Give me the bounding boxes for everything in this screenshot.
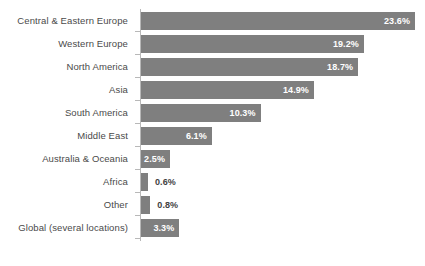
category-label: Asia <box>0 78 134 101</box>
bar-container: 18.7% <box>141 58 358 76</box>
bar-value-label: 0.8% <box>157 200 178 210</box>
bar-chart: Central & Eastern Europe23.6%Western Eur… <box>0 0 425 266</box>
bar-row: South America10.3% <box>0 101 425 124</box>
bar: 23.6% <box>141 12 415 30</box>
bar-row: Western Europe19.2% <box>0 32 425 55</box>
bar-value-label: 3.3% <box>153 223 174 233</box>
bar-container: 14.9% <box>141 81 314 99</box>
bar-value-label: 6.1% <box>186 131 207 141</box>
category-label: Central & Eastern Europe <box>0 9 134 32</box>
bar-container: 0.8% <box>141 196 178 214</box>
category-label: Middle East <box>0 124 134 147</box>
bar-value-label: 10.3% <box>230 108 256 118</box>
bar: 3.3% <box>141 219 179 237</box>
category-label: Global (several locations) <box>0 216 134 239</box>
bar <box>141 173 148 191</box>
bar: 10.3% <box>141 104 261 122</box>
bar-container: 0.6% <box>141 173 176 191</box>
bar-row: Asia14.9% <box>0 78 425 101</box>
category-label: Australia & Oceania <box>0 147 134 170</box>
category-label: Other <box>0 193 134 216</box>
bar-row: North America18.7% <box>0 55 425 78</box>
plot-area: Central & Eastern Europe23.6%Western Eur… <box>0 0 425 266</box>
bar-rows: Central & Eastern Europe23.6%Western Eur… <box>0 9 425 239</box>
bar <box>141 196 150 214</box>
bar-container: 10.3% <box>141 104 261 122</box>
axis-tick <box>135 238 140 239</box>
bar-container: 2.5% <box>141 150 170 168</box>
bar-row: Global (several locations)3.3% <box>0 216 425 239</box>
bar-value-label: 23.6% <box>384 16 410 26</box>
bar-container: 23.6% <box>141 12 415 30</box>
bar-row: Middle East6.1% <box>0 124 425 147</box>
bar-row: Australia & Oceania2.5% <box>0 147 425 170</box>
bar-container: 3.3% <box>141 219 179 237</box>
bar-container: 19.2% <box>141 35 364 53</box>
bar-row: Other0.8% <box>0 193 425 216</box>
bar: 18.7% <box>141 58 358 76</box>
bar: 6.1% <box>141 127 212 145</box>
bar: 19.2% <box>141 35 364 53</box>
category-label: Western Europe <box>0 32 134 55</box>
category-label: North America <box>0 55 134 78</box>
bar-value-label: 0.6% <box>155 177 176 187</box>
bar-value-label: 14.9% <box>283 85 309 95</box>
category-label: South America <box>0 101 134 124</box>
bar-row: Africa0.6% <box>0 170 425 193</box>
bar: 2.5% <box>141 150 170 168</box>
bar-value-label: 19.2% <box>333 39 359 49</box>
category-label: Africa <box>0 170 134 193</box>
bar: 14.9% <box>141 81 314 99</box>
bar-container: 6.1% <box>141 127 212 145</box>
bar-value-label: 18.7% <box>327 62 353 72</box>
bar-value-label: 2.5% <box>144 154 165 164</box>
bar-row: Central & Eastern Europe23.6% <box>0 9 425 32</box>
